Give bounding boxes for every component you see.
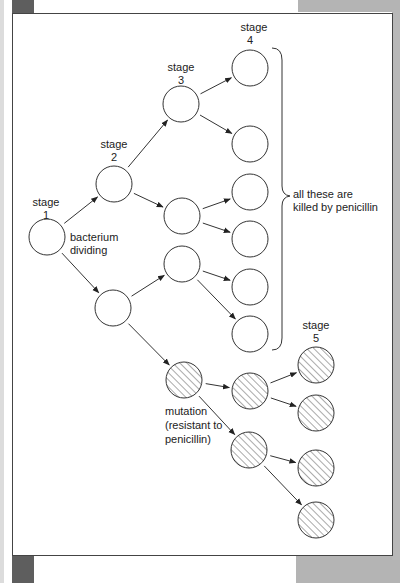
resistant-bacterium-cell-s5c (298, 450, 334, 486)
arrow-s1-to-s2a (64, 197, 97, 223)
arrow-s3c-to-s4e (203, 271, 230, 280)
svg-text:penicillin): penicillin) (165, 433, 211, 445)
svg-text:(resistant to: (resistant to (165, 419, 222, 431)
bacterium-cell-s3b (164, 198, 200, 234)
arrow-s4m1-to-s5a (270, 373, 296, 383)
svg-text:bacterium: bacterium (70, 231, 118, 243)
arrow-s4m1-to-s5b (271, 398, 296, 406)
bacterium-dividing-label: bacterium dividing (70, 231, 118, 256)
svg-text:all these are: all these are (293, 188, 353, 200)
svg-text:stage: stage (241, 21, 268, 33)
arrow-s2a-to-s3b (134, 193, 163, 207)
arrow-s3a-to-s4b (200, 115, 232, 133)
killed-by-penicillin-label: all these are killed by penicillin (293, 188, 378, 213)
stage2-label: stage 2 (101, 138, 128, 163)
svg-text:2: 2 (111, 151, 117, 163)
svg-text:1: 1 (43, 209, 49, 221)
svg-text:stage: stage (168, 61, 195, 73)
stage3-label: stage 3 (168, 61, 195, 86)
mutation-label: mutation (resistant to penicillin) (165, 405, 222, 445)
bacteria-division-diagram: stage 1 stage 2 stage 3 stage 4 stage 5 … (0, 0, 400, 583)
bacterium-cell-s3a (163, 86, 199, 122)
stage1-label: stage 1 (33, 196, 60, 221)
bacterium-cell-s4b (232, 126, 268, 162)
svg-text:5: 5 (313, 332, 319, 344)
svg-text:stage: stage (101, 138, 128, 150)
bacterium-cell-s4e (232, 269, 268, 305)
svg-text:3: 3 (178, 74, 184, 86)
resistant-bacterium-cell-s5a (298, 347, 334, 383)
arrow-s3m-to-s4m1 (206, 384, 230, 388)
resistant-bacterium-cell-s4m1 (232, 373, 268, 409)
svg-text:mutation: mutation (165, 405, 207, 417)
bacterium-cell-s4d (232, 221, 268, 257)
stage5-label: stage 5 (303, 319, 330, 344)
resistant-bacterium-cell-s4m2 (231, 432, 267, 468)
bacterium-cell-s1 (29, 219, 65, 255)
svg-text:stage: stage (33, 196, 60, 208)
arrow-s3c-to-s4f (197, 280, 235, 319)
svg-text:dividing: dividing (70, 244, 107, 256)
stage4-label: stage 4 (241, 21, 268, 46)
bacterium-cell-s4c (232, 174, 268, 210)
svg-text:stage: stage (303, 319, 330, 331)
bacterium-cell-s4f (232, 316, 268, 352)
resistant-bacterium-cell-s3m (166, 362, 202, 398)
arrow-s4m2-to-s5d (264, 466, 301, 505)
resistant-bacterium-cell-s5d (298, 502, 334, 538)
resistant-bacterium-cell-s5b (298, 395, 334, 431)
svg-text:killed by penicillin: killed by penicillin (293, 201, 378, 213)
cells-group (29, 50, 334, 538)
bacterium-cell-s2a (96, 166, 132, 202)
arrow-s3b-to-s4c (203, 199, 230, 209)
bacterium-cell-s2b (95, 290, 131, 326)
arrow-s3b-to-s4d (203, 223, 230, 232)
arrow-s4m2-to-s5c (270, 456, 295, 463)
arrow-s2a-to-s3a (128, 120, 167, 167)
bacterium-cell-s4a (232, 50, 268, 86)
arrow-s2b-to-s3m (128, 324, 169, 365)
arrow-s3a-to-s4a (201, 78, 232, 94)
svg-text:4: 4 (247, 34, 253, 46)
brace-icon (272, 48, 290, 350)
arrow-s1-to-s2b (62, 253, 99, 293)
bacterium-cell-s3c (164, 246, 200, 282)
arrow-s2b-to-s3c (132, 275, 165, 296)
